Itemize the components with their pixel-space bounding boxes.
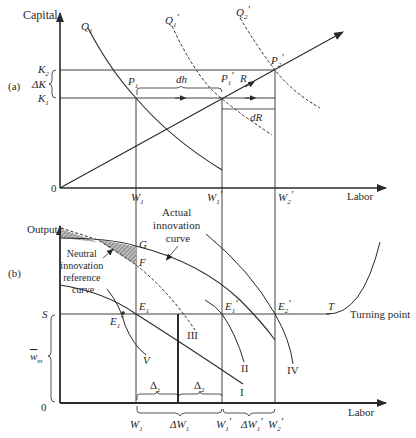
actual-curve-pointer xyxy=(168,246,178,258)
q1-prime-label: Q1' xyxy=(165,11,179,29)
w1-label-a: W1 xyxy=(131,191,144,206)
capital-axis-label: Capital xyxy=(23,8,58,22)
p1-label: P1 xyxy=(127,75,138,90)
dh-label: dh xyxy=(176,73,188,85)
labor-surplus-innovation-diagram: Capital Labor 0 (a) K2 ΔK K1 dh dR R Q1 … xyxy=(0,0,416,438)
delta1-label: Δ1 xyxy=(150,379,161,394)
delta-k-label: ΔK xyxy=(31,78,46,90)
delta-k-brace xyxy=(49,70,56,98)
w1-label-b: W1 xyxy=(130,418,143,433)
p1-prime-label: P1' xyxy=(220,69,234,87)
labor-axis-label-a: Labor xyxy=(347,190,374,202)
curve-i-label: I xyxy=(240,386,244,398)
curve-ii-label: II xyxy=(241,362,249,374)
e1-label: E1 xyxy=(138,300,149,315)
expansion-ray-r xyxy=(60,32,343,188)
origin-label-b: 0 xyxy=(41,401,47,413)
panel-b-label: (b) xyxy=(8,267,21,280)
w1-prime-label-a: W1' xyxy=(207,188,223,206)
delta-w1-label: ΔW1 xyxy=(169,418,189,433)
q2-prime-label: Q2' xyxy=(236,3,250,21)
curve-iii-label: III xyxy=(187,329,198,341)
neutral-curve-pointer xyxy=(103,251,111,258)
w2-prime-label-a: W2' xyxy=(278,188,294,206)
origin-label-a: 0 xyxy=(51,182,57,194)
e1-double-prime-label: E1" xyxy=(109,315,124,330)
panel-a-label: (a) xyxy=(8,80,21,93)
curve-i xyxy=(60,285,243,384)
delta-w1-prime-label: ΔW1' xyxy=(240,415,263,433)
f-label: F xyxy=(138,256,146,268)
labor-axis-label-b: Labor xyxy=(348,406,375,418)
e2-prime-label: E2' xyxy=(277,297,291,315)
w1-prime-label-b: W1' xyxy=(216,415,232,433)
s-label: S xyxy=(42,308,48,320)
q1-label: Q1 xyxy=(81,20,92,35)
neutral-curve-label: Neutral innovation reference curve xyxy=(60,248,105,295)
actual-curve-label: Actual innovation curve xyxy=(153,206,203,244)
hatched-area-top xyxy=(61,229,98,242)
panel-b: Output Labor 0 (b) S T Turning point wm … xyxy=(8,206,410,433)
panel-a: Capital Labor 0 (a) K2 ΔK K1 dh dR R Q1 … xyxy=(8,3,386,206)
curve-iv-label: IV xyxy=(287,364,299,376)
delta-w1-brace xyxy=(137,406,222,416)
g-label: G xyxy=(139,238,147,250)
wm-label: wm xyxy=(30,350,42,365)
k2-label: K2 xyxy=(37,63,49,78)
k1-label: K1 xyxy=(37,92,49,107)
curve-v-label: V xyxy=(143,354,151,366)
turning-point-label: Turning point xyxy=(350,308,410,320)
curve-iv xyxy=(206,234,293,364)
wm-brace xyxy=(48,315,55,402)
t-label: T xyxy=(328,300,335,312)
r-label: R xyxy=(239,72,247,84)
e1-prime-label: E1' xyxy=(224,297,238,315)
w2-prime-label-b: W2' xyxy=(268,415,284,433)
output-axis-label: Output xyxy=(27,223,58,235)
isoquant-q1 xyxy=(88,28,222,170)
